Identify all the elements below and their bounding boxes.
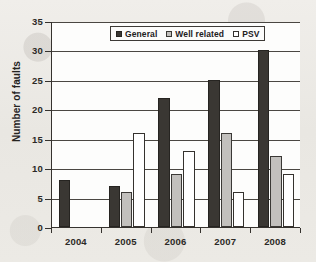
y-tick-label-10: 10 bbox=[26, 163, 43, 174]
plot-area bbox=[51, 22, 300, 228]
y-tick-label-5: 5 bbox=[26, 193, 43, 204]
x-tick-label-2007: 2007 bbox=[202, 236, 248, 247]
bar-psv-2008 bbox=[283, 174, 295, 227]
x-tick-label-2004: 2004 bbox=[53, 236, 99, 247]
bar-general-2005 bbox=[109, 186, 121, 227]
chart-legend: GeneralWell relatedPSV bbox=[110, 26, 265, 41]
bar-psv-2005 bbox=[133, 133, 145, 227]
y-tick-label-35: 35 bbox=[26, 16, 43, 27]
bar-chart: Number of faults 05101520253035 20042005… bbox=[0, 0, 316, 262]
bar-well-related-2006 bbox=[171, 174, 183, 227]
y-tick-label-25: 25 bbox=[26, 75, 43, 86]
legend-swatch-well bbox=[166, 31, 172, 37]
bar-psv-2006 bbox=[183, 151, 195, 228]
legend-label: PSV bbox=[242, 29, 259, 39]
bar-well-related-2008 bbox=[270, 156, 282, 227]
legend-label: General bbox=[125, 29, 157, 39]
y-tick-label-15: 15 bbox=[26, 134, 43, 145]
x-tick-mark-3 bbox=[200, 228, 201, 233]
legend-entry-well-related: Well related bbox=[166, 29, 224, 39]
x-tick-mark-5 bbox=[300, 228, 301, 233]
bar-well-related-2007 bbox=[221, 133, 233, 227]
x-tick-mark-0 bbox=[51, 228, 52, 233]
bar-general-2007 bbox=[208, 80, 220, 227]
x-tick-mark-2 bbox=[151, 228, 152, 233]
x-tick-label-2006: 2006 bbox=[153, 236, 199, 247]
legend-entry-psv: PSV bbox=[233, 29, 259, 39]
bar-general-2008 bbox=[258, 50, 270, 227]
bar-psv-2007 bbox=[233, 192, 245, 227]
y-tick-label-20: 20 bbox=[26, 104, 43, 115]
y-axis-label: Number of faults bbox=[11, 47, 22, 157]
y-tick-label-30: 30 bbox=[26, 45, 43, 56]
plot-top-border bbox=[52, 22, 300, 23]
y-tick-label-0: 0 bbox=[26, 222, 43, 233]
legend-swatch-psv bbox=[233, 31, 239, 37]
bar-general-2006 bbox=[158, 98, 170, 227]
x-axis: 20042005200620072008 bbox=[51, 228, 300, 254]
legend-entry-general: General bbox=[116, 29, 157, 39]
x-tick-mark-1 bbox=[101, 228, 102, 233]
legend-swatch-general bbox=[116, 31, 122, 37]
legend-label: Well related bbox=[175, 29, 224, 39]
bar-well-related-2005 bbox=[121, 192, 133, 227]
x-tick-label-2008: 2008 bbox=[252, 236, 298, 247]
x-tick-label-2005: 2005 bbox=[103, 236, 149, 247]
bar-general-2004 bbox=[59, 180, 71, 227]
x-tick-mark-4 bbox=[250, 228, 251, 233]
